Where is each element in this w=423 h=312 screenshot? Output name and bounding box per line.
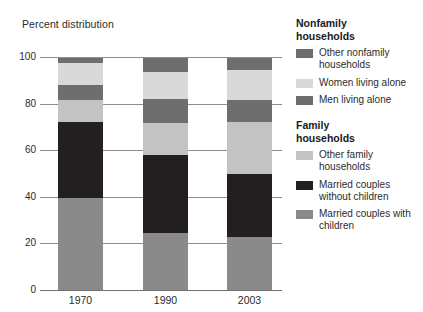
legend-item-label: Married couples without children <box>319 179 420 203</box>
legend-group-title: Nonfamilyhouseholds <box>296 17 420 42</box>
bar-segment <box>143 155 188 233</box>
gridline-0 <box>40 290 282 291</box>
legend-item[interactable]: Men living alone <box>296 94 420 106</box>
legend-swatch-icon <box>296 151 313 160</box>
legend-group-title-line1: Family <box>296 119 420 132</box>
stacked-bar-chart: Percent distribution 020406080100 197019… <box>0 0 290 312</box>
legend-group-1: NonfamilyhouseholdsOther nonfamily house… <box>296 17 420 106</box>
bar-segment <box>58 198 103 290</box>
legend-group-title-line2: households <box>296 132 420 145</box>
legend-item[interactable]: Women living alone <box>296 77 420 89</box>
y-tick-label-60: 60 <box>2 145 36 155</box>
bar-1970 <box>58 57 103 290</box>
y-tick-label-0: 0 <box>2 285 36 295</box>
legend-swatch-icon <box>296 210 313 219</box>
bar-segment <box>143 72 188 99</box>
bar-segment <box>58 85 103 100</box>
bar-segment <box>58 63 103 85</box>
plot-area <box>40 57 282 290</box>
bar-segment <box>143 99 188 123</box>
legend-item-label: Men living alone <box>319 94 420 106</box>
legend-item[interactable]: Married couples without children <box>296 179 420 203</box>
x-tick-label-2003: 2003 <box>220 294 280 306</box>
legend-item-label: Women living alone <box>319 77 420 89</box>
bar-segment <box>227 58 272 70</box>
legend-swatch-icon <box>296 79 313 88</box>
y-axis-tick-labels: 020406080100 <box>0 57 36 290</box>
legend-group-title: Familyhouseholds <box>296 119 420 144</box>
bar-segment <box>143 58 188 72</box>
bar-segment <box>227 122 272 174</box>
legend-item[interactable]: Other nonfamily households <box>296 47 420 71</box>
y-tick-label-80: 80 <box>2 99 36 109</box>
legend-group-title-line1: Nonfamily <box>296 17 420 30</box>
chart-legend: NonfamilyhouseholdsOther nonfamily house… <box>296 17 420 237</box>
legend-item-label: Other nonfamily households <box>319 47 420 71</box>
bar-segment <box>227 174 272 237</box>
bar-segment <box>143 233 188 290</box>
legend-item[interactable]: Married couples with children <box>296 208 420 232</box>
legend-item-label: Married couples with children <box>319 208 420 232</box>
y-tick-label-20: 20 <box>2 238 36 248</box>
legend-item-label: Other family households <box>319 149 420 173</box>
bar-segment <box>143 123 188 155</box>
legend-swatch-icon <box>296 49 313 58</box>
y-tick-label-40: 40 <box>2 192 36 202</box>
x-tick-label-1990: 1990 <box>136 294 196 306</box>
bar-2003 <box>227 57 272 290</box>
legend-group-title-line2: households <box>296 30 420 43</box>
legend-item[interactable]: Other family households <box>296 149 420 173</box>
y-tick-label-100: 100 <box>2 52 36 62</box>
chart-axis-title: Percent distribution <box>22 18 114 30</box>
bar-1990 <box>143 57 188 290</box>
bar-segment <box>58 122 103 198</box>
bar-segment <box>227 70 272 100</box>
bar-segment <box>227 100 272 122</box>
legend-group-2: FamilyhouseholdsOther family householdsM… <box>296 119 420 232</box>
bar-segment <box>227 237 272 290</box>
legend-swatch-icon <box>296 96 313 105</box>
legend-swatch-icon <box>296 181 313 190</box>
bar-segment <box>58 100 103 122</box>
x-tick-label-1970: 1970 <box>51 294 111 306</box>
